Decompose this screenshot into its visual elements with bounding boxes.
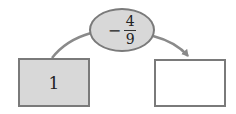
outgoing-arrow <box>153 36 188 56</box>
output-box[interactable] <box>154 59 226 107</box>
negative-sign: − <box>108 21 121 40</box>
operator-oval: − 4 9 <box>89 8 155 52</box>
denominator: 9 <box>125 32 136 47</box>
numerator: 4 <box>125 14 136 29</box>
input-box: 1 <box>18 58 90 107</box>
incoming-connector <box>52 33 91 58</box>
input-value: 1 <box>49 73 60 93</box>
fraction: 4 9 <box>124 14 136 47</box>
diagram-canvas: 1 − 4 9 <box>0 0 236 114</box>
